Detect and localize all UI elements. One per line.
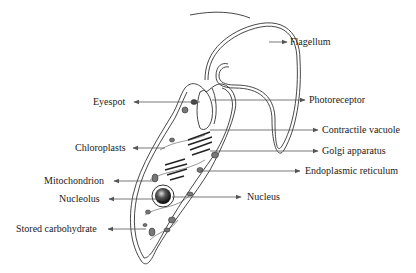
label-flagellum: Flagellum: [290, 36, 331, 48]
label-golgi-apparatus: Golgi apparatus: [322, 145, 386, 157]
leader-lines: [108, 42, 318, 229]
organelles: [143, 100, 219, 237]
flagellum-shape: [190, 12, 300, 153]
label-contractile-vacuole: Contractile vacuole: [322, 124, 400, 136]
label-photoreceptor: Photoreceptor: [309, 94, 365, 106]
nucleus-shape: [152, 185, 174, 207]
label-eyespot: Eyespot: [93, 96, 125, 108]
label-stored-carbohydrate: Stored carbohydrate: [16, 223, 97, 235]
label-nucleus: Nucleus: [247, 191, 280, 203]
label-mitochondrion: Mitochondrion: [44, 175, 104, 187]
label-endoplasmic-reticulum: Endoplasmic reticulum: [305, 165, 398, 177]
label-nucleolus: Nucleolus: [59, 193, 100, 205]
label-chloroplasts: Chloroplasts: [75, 142, 126, 154]
